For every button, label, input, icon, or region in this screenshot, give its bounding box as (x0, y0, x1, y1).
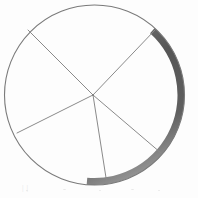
circle-sector-figure (0, 0, 198, 198)
paper-background (0, 0, 198, 198)
center-vertex-point (92, 94, 94, 96)
